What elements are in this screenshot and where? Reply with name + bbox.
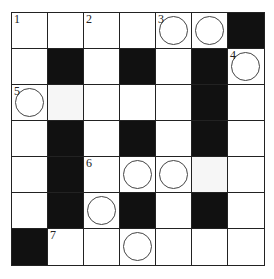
grid-cell[interactable] xyxy=(228,193,264,229)
clue-number: 4 xyxy=(230,49,236,62)
grid-cell[interactable] xyxy=(192,157,228,193)
grid-cell[interactable] xyxy=(12,49,48,85)
grid-cell[interactable]: 4 xyxy=(228,49,264,85)
grid-cell[interactable]: 7 xyxy=(48,229,84,265)
grid-cell[interactable] xyxy=(120,157,156,193)
circle-marker-icon xyxy=(195,16,224,45)
grid-cell[interactable] xyxy=(84,121,120,157)
grid-cell[interactable] xyxy=(84,49,120,85)
circle-marker-icon xyxy=(123,232,152,261)
circle-marker-icon xyxy=(123,160,152,189)
clue-number: 7 xyxy=(50,229,56,242)
grid-cell[interactable] xyxy=(156,121,192,157)
grid-cell[interactable] xyxy=(192,229,228,265)
clue-number: 6 xyxy=(86,157,92,170)
black-cell xyxy=(48,49,84,85)
black-cell xyxy=(48,157,84,193)
grid-cell[interactable] xyxy=(120,13,156,49)
black-cell xyxy=(120,49,156,85)
black-cell xyxy=(192,85,228,121)
crossword-grid: 1234567 xyxy=(11,12,265,266)
grid-cell[interactable] xyxy=(120,229,156,265)
grid-cell[interactable] xyxy=(84,193,120,229)
black-cell xyxy=(120,193,156,229)
grid-cell[interactable]: 3 xyxy=(156,13,192,49)
grid-cell[interactable] xyxy=(156,157,192,193)
black-cell xyxy=(228,13,264,49)
grid-cell[interactable]: 5 xyxy=(12,85,48,121)
grid-cell[interactable] xyxy=(228,121,264,157)
black-cell xyxy=(48,193,84,229)
black-cell xyxy=(48,121,84,157)
grid-cell[interactable] xyxy=(12,121,48,157)
grid-cell[interactable] xyxy=(228,157,264,193)
grid-cell[interactable] xyxy=(12,193,48,229)
grid-cell[interactable]: 1 xyxy=(12,13,48,49)
grid-cell[interactable] xyxy=(156,229,192,265)
grid-cell[interactable] xyxy=(48,13,84,49)
grid-cell[interactable] xyxy=(84,85,120,121)
clue-number: 2 xyxy=(86,13,92,26)
grid-cell[interactable]: 6 xyxy=(84,157,120,193)
grid-cell[interactable] xyxy=(12,157,48,193)
grid-cell[interactable] xyxy=(84,229,120,265)
grid-cell[interactable]: 2 xyxy=(84,13,120,49)
clue-number: 5 xyxy=(14,85,20,98)
grid-cell[interactable] xyxy=(120,85,156,121)
grid-cell[interactable] xyxy=(228,229,264,265)
grid-cell[interactable] xyxy=(156,193,192,229)
circle-marker-icon xyxy=(159,160,188,189)
grid-cell[interactable] xyxy=(156,85,192,121)
black-cell xyxy=(12,229,48,265)
black-cell xyxy=(192,121,228,157)
black-cell xyxy=(192,193,228,229)
grid-cell[interactable] xyxy=(228,85,264,121)
black-cell xyxy=(120,121,156,157)
grid-cell[interactable] xyxy=(192,13,228,49)
grid-cell[interactable] xyxy=(156,49,192,85)
clue-number: 3 xyxy=(158,13,164,26)
circle-marker-icon xyxy=(87,196,116,225)
black-cell xyxy=(192,49,228,85)
clue-number: 1 xyxy=(14,13,20,26)
grid-cell[interactable] xyxy=(48,85,84,121)
